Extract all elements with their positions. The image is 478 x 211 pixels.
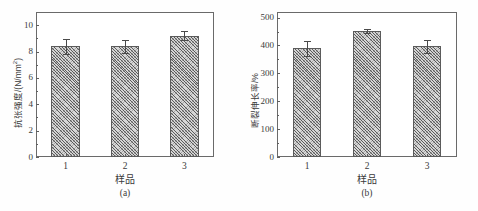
error-bar-cap-b-2-upper <box>364 29 371 30</box>
bar-a-3 <box>170 36 198 157</box>
x-tick-a-3 <box>184 154 185 157</box>
y-tick-a-2 <box>36 104 39 105</box>
y-minor-tick-a-1 <box>36 117 38 118</box>
x-tick-a-1 <box>66 154 67 157</box>
error-bar-cap-a-3-lower <box>181 40 188 41</box>
x-tick-label-b-2: 2 <box>352 161 382 171</box>
y-tick-b-0 <box>277 157 280 158</box>
x-tick-label-b-3: 3 <box>412 161 442 171</box>
x-tick-label-a-2: 2 <box>110 161 140 171</box>
y-tick-label-a-5: 10 <box>9 21 33 30</box>
y-tick-label-a-0: 0 <box>9 153 33 162</box>
bar-b-2 <box>353 31 382 157</box>
x-axis-title-b: 样品 <box>277 174 457 185</box>
error-bar-cap-b-2-lower <box>364 33 371 34</box>
y-minor-tick-b-3 <box>277 59 279 60</box>
y-tick-a-1 <box>36 131 39 132</box>
y-axis-title-a: 抗张强度/(N/mm2) <box>11 58 23 128</box>
y-tick-a-3 <box>36 78 39 79</box>
y-minor-tick-b-1 <box>277 115 279 116</box>
y-tick-label-a-3: 6 <box>9 73 33 82</box>
error-bar-cap-b-1-upper <box>304 41 311 42</box>
error-bar-cap-a-1-lower <box>63 54 70 55</box>
bar-a-1 <box>51 46 79 157</box>
x-tick-b-2 <box>367 154 368 157</box>
y-tick-label-a-1: 2 <box>9 126 33 135</box>
y-tick-label-b-5: 500 <box>250 13 274 22</box>
y-minor-tick-a-3 <box>36 65 38 66</box>
y-tick-a-4 <box>36 52 39 53</box>
y-tick-a-5 <box>36 25 39 26</box>
bar-b-3 <box>413 46 442 157</box>
y-minor-tick-a-2 <box>36 91 38 92</box>
chart-panel-b: 断裂伸长率/% 样品 (b) 0100200300400500123 <box>239 0 478 211</box>
error-bar-cap-b-3-lower <box>424 53 431 54</box>
error-bar-cap-a-2-upper <box>122 40 129 41</box>
error-bar-stem-a-2 <box>125 40 126 53</box>
error-bar-stem-b-1 <box>307 41 308 56</box>
error-bar-cap-a-2-lower <box>122 53 129 54</box>
error-bar-cap-b-3-upper <box>424 40 431 41</box>
y-tick-label-b-4: 400 <box>250 41 274 50</box>
error-bar-cap-a-3-upper <box>181 31 188 32</box>
chart-panel-a: 抗张强度/(N/mm2) 样品 (a) 0246810123 <box>0 0 239 211</box>
y-tick-b-5 <box>277 18 280 19</box>
x-tick-label-a-3: 3 <box>169 161 199 171</box>
error-bar-stem-a-1 <box>66 39 67 54</box>
y-tick-label-a-4: 8 <box>9 47 33 56</box>
x-axis-title-a: 样品 <box>36 174 214 185</box>
x-tick-b-1 <box>307 154 308 157</box>
y-tick-b-2 <box>277 101 280 102</box>
y-minor-tick-a-0 <box>36 144 38 145</box>
error-bar-cap-a-1-upper <box>63 39 70 40</box>
y-tick-label-b-2: 200 <box>250 97 274 106</box>
x-tick-a-2 <box>125 154 126 157</box>
bar-b-1 <box>293 48 322 157</box>
error-bar-stem-b-3 <box>427 40 428 53</box>
y-tick-b-4 <box>277 45 280 46</box>
error-bar-stem-a-3 <box>184 31 185 40</box>
y-minor-tick-b-4 <box>277 32 279 33</box>
error-bar-cap-b-1-lower <box>304 56 311 57</box>
y-tick-label-a-2: 4 <box>9 100 33 109</box>
y-tick-label-b-0: 0 <box>250 153 274 162</box>
y-tick-b-3 <box>277 73 280 74</box>
x-tick-b-3 <box>427 154 428 157</box>
panel-caption-a: (a) <box>36 188 214 198</box>
y-tick-label-b-3: 300 <box>250 69 274 78</box>
bar-a-2 <box>111 46 139 157</box>
y-tick-label-b-1: 100 <box>250 125 274 134</box>
y-minor-tick-b-0 <box>277 143 279 144</box>
y-tick-b-1 <box>277 129 280 130</box>
y-minor-tick-b-2 <box>277 87 279 88</box>
panel-caption-b: (b) <box>277 188 457 198</box>
figure-container: 抗张强度/(N/mm2) 样品 (a) 0246810123 断裂伸长率/% 样… <box>0 0 478 211</box>
x-tick-label-a-1: 1 <box>51 161 81 171</box>
y-tick-a-0 <box>36 157 39 158</box>
x-tick-label-b-1: 1 <box>292 161 322 171</box>
y-minor-tick-a-4 <box>36 38 38 39</box>
